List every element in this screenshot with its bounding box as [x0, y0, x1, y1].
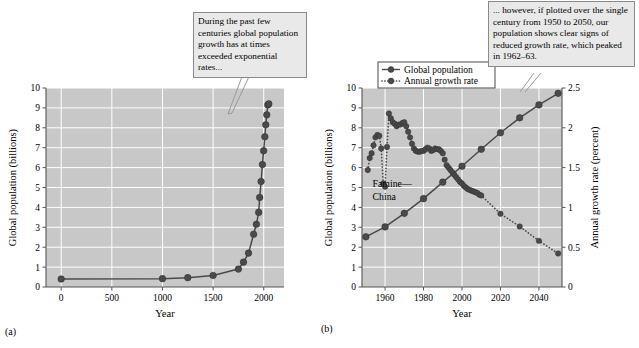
- y-tick-label: 6: [35, 163, 40, 173]
- data-point: [210, 272, 217, 279]
- x-axis-title-panel-b: Year: [452, 308, 472, 319]
- x-ticks-panel-b: 19601980200020202040: [376, 287, 549, 303]
- data-point: [250, 231, 257, 238]
- y-tick-label: 2: [351, 243, 356, 253]
- panel-label-a: (a): [5, 326, 16, 337]
- y-tick-label: 3: [351, 223, 356, 233]
- data-point: [478, 146, 485, 153]
- data-point: [369, 151, 374, 156]
- callout-panel-b: ... however, if plotted over the single …: [488, 1, 635, 67]
- x-tick-label: 2000: [453, 293, 472, 303]
- data-point: [259, 161, 266, 168]
- chart-panel-b: 01234567891000.511.522.51960198020002020…: [323, 83, 601, 319]
- data-point: [58, 276, 65, 283]
- y-ticks-panel-a: 012345678910: [31, 83, 47, 292]
- y2-axis-title-panel-b: Annual growth rate (percent): [589, 126, 601, 249]
- data-point: [256, 194, 263, 201]
- data-point: [240, 259, 247, 266]
- y-tick-label: 2: [35, 243, 40, 253]
- y2-tick-label: 0.5: [568, 243, 580, 253]
- data-point: [405, 129, 410, 134]
- legend-panel-b: Global populationAnnual growth rate: [378, 62, 495, 88]
- data-point: [262, 122, 269, 129]
- x-ticks-panel-a: 0500100015002000: [59, 287, 274, 303]
- data-point: [266, 101, 273, 108]
- y-ticks-panel-b: 012345678910: [347, 83, 363, 292]
- data-point: [555, 90, 562, 97]
- data-point: [517, 224, 522, 229]
- y-tick-label: 9: [35, 103, 40, 113]
- y-tick-label: 0: [351, 282, 356, 292]
- x-tick-label: 2000: [254, 293, 273, 303]
- data-point: [184, 274, 191, 281]
- data-point: [536, 238, 541, 243]
- y-tick-label: 4: [35, 203, 40, 213]
- data-point: [420, 195, 427, 202]
- data-point: [363, 234, 370, 241]
- data-point: [377, 133, 382, 138]
- data-point: [262, 133, 269, 140]
- x-axis-title-panel-a: Year: [155, 308, 175, 319]
- y-tick-label: 1: [351, 263, 356, 273]
- data-point: [479, 193, 484, 198]
- y2-tick-label: 2.5: [568, 83, 580, 93]
- y-tick-label: 5: [35, 183, 40, 193]
- y2-tick-label: 0: [568, 282, 573, 292]
- data-point: [263, 112, 270, 119]
- y-tick-label: 9: [351, 103, 356, 113]
- x-tick-label: 1000: [153, 293, 172, 303]
- y-tick-label: 8: [351, 123, 356, 133]
- data-point: [365, 167, 370, 172]
- data-point: [407, 135, 412, 140]
- y-tick-label: 1: [35, 263, 40, 273]
- data-point: [260, 147, 267, 154]
- y2-tick-label: 1.5: [568, 163, 580, 173]
- y-tick-label: 10: [31, 83, 41, 93]
- data-point: [245, 250, 252, 257]
- y2-ticks-panel-b: 00.511.522.5: [562, 83, 580, 292]
- y-tick-label: 8: [35, 123, 40, 133]
- data-point: [382, 224, 389, 231]
- annotation-label: China: [373, 191, 397, 202]
- y-tick-label: 5: [351, 183, 356, 193]
- x-tick-label: 2020: [491, 293, 510, 303]
- data-point: [536, 102, 543, 109]
- legend-marker-0: [388, 67, 394, 73]
- data-point: [498, 211, 503, 216]
- data-point: [401, 210, 408, 217]
- x-tick-label: 0: [59, 293, 64, 303]
- legend-label-1: Annual growth rate: [404, 76, 478, 86]
- y-axis-title-panel-a: Global population (billions): [7, 128, 19, 246]
- x-tick-label: 1960: [376, 293, 395, 303]
- data-point: [379, 146, 384, 151]
- x-tick-label: 2040: [529, 293, 548, 303]
- y-axis-title-panel-b: Global population (billions): [323, 128, 335, 246]
- panel-label-b: (b): [321, 323, 333, 334]
- data-point: [258, 178, 265, 185]
- x-tick-label: 1500: [204, 293, 223, 303]
- y2-tick-label: 2: [568, 123, 573, 133]
- y-tick-label: 0: [35, 282, 40, 292]
- data-point: [255, 209, 262, 216]
- data-point: [404, 124, 409, 129]
- y2-tick-label: 1: [568, 203, 573, 213]
- x-tick-label: 500: [105, 293, 120, 303]
- y-tick-label: 7: [351, 143, 356, 153]
- x-tick-label: 1980: [414, 293, 433, 303]
- data-point: [459, 163, 466, 170]
- data-point: [440, 151, 445, 156]
- y-tick-label: 6: [351, 163, 356, 173]
- chart-panel-a: 0123456789100500100015002000YearGlobal p…: [7, 83, 284, 319]
- data-point: [253, 221, 260, 228]
- data-point: [497, 129, 504, 136]
- data-point: [442, 157, 447, 162]
- y-tick-label: 3: [35, 223, 40, 233]
- legend-label-0: Global population: [404, 65, 473, 75]
- data-point: [235, 266, 242, 273]
- y-tick-label: 4: [351, 203, 356, 213]
- data-point: [516, 115, 523, 122]
- callout-panel-a: During the past few centuries global pop…: [193, 12, 307, 78]
- data-point: [159, 275, 166, 282]
- data-point: [371, 143, 376, 148]
- y-tick-label: 10: [347, 83, 357, 93]
